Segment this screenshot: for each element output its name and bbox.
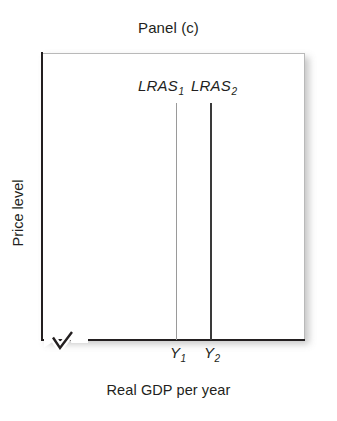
axis-break-icon bbox=[44, 316, 90, 350]
x-tick-y2-subscript: 2 bbox=[215, 353, 221, 364]
lras2-label: LRAS2 bbox=[191, 77, 237, 94]
panel-title: Panel (c) bbox=[0, 19, 337, 36]
x-tick-label-y1: Y1 bbox=[170, 344, 186, 361]
x-tick-label-y2: Y2 bbox=[204, 344, 220, 361]
plot-frame bbox=[42, 53, 305, 340]
y-axis-title: Price level bbox=[10, 168, 26, 258]
x-tick-y2-base: Y bbox=[204, 344, 214, 361]
x-axis-title: Real GDP per year bbox=[0, 382, 337, 398]
y-axis-line bbox=[41, 52, 43, 341]
lras-panel-figure: Panel (c) LRAS1 LRAS2 Y1 Y2 Price level … bbox=[0, 0, 337, 421]
lras1-label-subscript: 1 bbox=[179, 86, 185, 97]
lras2-label-base: LRAS bbox=[191, 77, 231, 94]
lras1-label-base: LRAS bbox=[138, 77, 178, 94]
lras1-label: LRAS1 bbox=[138, 77, 184, 94]
lras1-curve bbox=[176, 103, 177, 340]
lras2-label-subscript: 2 bbox=[232, 86, 238, 97]
x-tick-y1-base: Y bbox=[170, 344, 180, 361]
x-tick-y1-subscript: 1 bbox=[181, 353, 187, 364]
lras2-curve bbox=[210, 103, 212, 340]
